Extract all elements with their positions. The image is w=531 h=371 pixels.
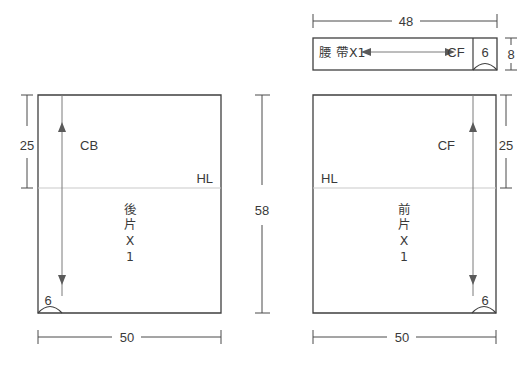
waistband-label: 腰 帶X1 <box>319 45 366 60</box>
front-side-dimension: 25 <box>499 95 513 188</box>
overall-height-value: 58 <box>255 203 269 218</box>
back-top-dimension: 25 <box>20 95 34 188</box>
back-piece-label: 後 片 X 1 <box>124 202 137 264</box>
svg-text:X: X <box>400 233 409 248</box>
waistband-width-dimension: 48 <box>313 14 497 29</box>
svg-text:1: 1 <box>126 249 134 264</box>
front-corner-curve-value: 6 <box>481 293 488 308</box>
waistband-piece: 腰 帶X1 CF 6 <box>313 38 497 70</box>
front-bottom-dimension-value: 50 <box>395 330 409 345</box>
front-piece: HL CF 6 前 片 X 1 <box>313 95 496 313</box>
svg-text:前: 前 <box>398 202 411 217</box>
back-bottom-dimension: 50 <box>38 330 221 345</box>
back-cb-label: CB <box>80 138 98 153</box>
front-bottom-dimension: 50 <box>313 330 496 345</box>
back-top-dimension-value: 25 <box>20 138 34 153</box>
waistband-grainline-arrow <box>361 48 455 56</box>
front-piece-label: 前 片 X 1 <box>398 202 411 264</box>
back-corner-curve-value: 6 <box>44 293 51 308</box>
svg-text:片: 片 <box>398 217 411 232</box>
svg-text:片: 片 <box>124 217 137 232</box>
back-piece: HL CB 6 後 片 X 1 <box>38 95 221 313</box>
back-hip-line-label: HL <box>196 171 213 186</box>
svg-text:後: 後 <box>124 202 137 217</box>
waistband-height-value: 8 <box>507 47 514 62</box>
front-grainline-arrow <box>469 95 477 296</box>
back-bottom-dimension-value: 50 <box>120 330 134 345</box>
front-side-dimension-value: 25 <box>499 138 513 153</box>
waistband-height-dimension: 8 <box>505 38 517 70</box>
back-grainline-arrow <box>58 95 66 296</box>
front-hip-line-label: HL <box>321 171 338 186</box>
waistband-width-value: 48 <box>399 14 413 29</box>
overall-height-dimension: 58 <box>255 95 270 313</box>
svg-text:X: X <box>126 233 135 248</box>
svg-text:1: 1 <box>400 249 408 264</box>
front-cf-label: CF <box>438 138 455 153</box>
waistband-end-segment-value: 6 <box>481 45 488 60</box>
pattern-sheet: 48 腰 帶X1 CF 6 8 <box>0 0 531 371</box>
waistband-cf-label: CF <box>447 45 464 60</box>
